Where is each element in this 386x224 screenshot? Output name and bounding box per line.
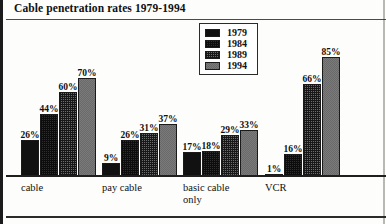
bar-value-label: 31% <box>140 123 159 134</box>
legend-item-1989: 1989 <box>205 49 247 60</box>
bar-1984-VCR[interactable]: 16% <box>284 154 302 176</box>
bar-value-label: 60% <box>59 82 78 93</box>
bar-1989-pay-cable[interactable]: 31% <box>140 133 158 176</box>
chart-legend: 1979 1984 1989 1994 <box>199 23 258 75</box>
bar-value-label: 70% <box>78 68 97 79</box>
legend-swatch-1979 <box>205 29 220 37</box>
bar-value-label: 66% <box>303 74 322 85</box>
bar-value-label: 18% <box>202 141 221 152</box>
legend-label-1984: 1984 <box>227 38 247 49</box>
bar-value-label: 85% <box>322 47 341 58</box>
bottom-divider <box>6 216 386 218</box>
bar-1984-basic-cable-only[interactable]: 18% <box>202 151 220 176</box>
bar-value-label: 16% <box>284 144 303 155</box>
bar-1994-basic-cable-only[interactable]: 33% <box>240 130 258 176</box>
bar-1989-VCR[interactable]: 66% <box>303 84 321 176</box>
legend-item-1994: 1994 <box>205 60 247 71</box>
legend-item-1984: 1984 <box>205 38 247 49</box>
bar-value-label: 44% <box>40 104 59 115</box>
legend-label-1979: 1979 <box>227 27 247 38</box>
x-axis-label-0: cable <box>21 182 43 194</box>
bar-value-label: 29% <box>221 125 240 136</box>
bar-value-label: 26% <box>121 130 140 141</box>
legend-swatch-1994 <box>205 62 220 70</box>
x-axis-line <box>6 175 386 177</box>
bar-1994-cable[interactable]: 70% <box>78 78 96 176</box>
bar-1984-cable[interactable]: 44% <box>40 114 58 176</box>
x-axis-label-2: basic cable only <box>183 182 229 206</box>
bar-value-label: 37% <box>159 114 178 125</box>
bar-1984-pay-cable[interactable]: 26% <box>121 140 139 176</box>
bar-1979-cable[interactable]: 26% <box>21 140 39 176</box>
bar-value-label: 9% <box>104 153 118 164</box>
bar-value-label: 26% <box>21 130 40 141</box>
plot-area: 26%44%60%70%9%26%31%37%17%18%29%33%1%16%… <box>6 22 386 176</box>
legend-swatch-1989 <box>205 51 220 59</box>
legend-label-1989: 1989 <box>227 49 247 60</box>
bar-value-label: 1% <box>267 164 281 175</box>
title-divider <box>6 19 386 20</box>
x-axis-label-3: VCR <box>265 182 287 194</box>
bar-1989-cable[interactable]: 60% <box>59 92 77 176</box>
bar-value-label: 17% <box>183 142 202 153</box>
legend-item-1979: 1979 <box>205 27 247 38</box>
legend-label-1994: 1994 <box>227 60 247 71</box>
chart-title: Cable penetration rates 1979-1994 <box>14 2 186 14</box>
bar-1979-basic-cable-only[interactable]: 17% <box>183 152 201 176</box>
bar-1989-basic-cable-only[interactable]: 29% <box>221 135 239 176</box>
bar-1994-pay-cable[interactable]: 37% <box>159 124 177 176</box>
bar-value-label: 33% <box>240 120 259 131</box>
x-axis-label-1: pay cable <box>102 182 142 194</box>
bar-1994-VCR[interactable]: 85% <box>322 57 340 176</box>
legend-swatch-1984 <box>205 40 220 48</box>
